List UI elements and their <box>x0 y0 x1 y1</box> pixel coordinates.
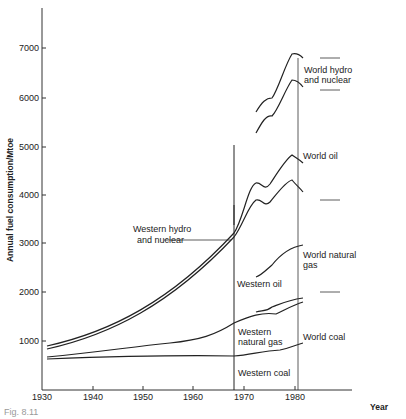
y-axis-label: Annual fuel consumption/Mtoe <box>5 138 15 262</box>
svg-text:natural gas: natural gas <box>238 337 283 347</box>
svg-text:6000: 6000 <box>19 93 39 103</box>
svg-text:1930: 1930 <box>32 392 52 402</box>
svg-text:and nuclear: and nuclear <box>137 235 184 245</box>
x-axis-label: Year <box>370 402 389 412</box>
label-world-gas: World natural <box>303 250 356 260</box>
label-world-hydro: World hydro <box>304 65 352 75</box>
svg-text:3000: 3000 <box>19 238 39 248</box>
svg-text:5000: 5000 <box>19 142 39 152</box>
svg-text:2000: 2000 <box>19 287 39 297</box>
svg-text:1980: 1980 <box>285 392 305 402</box>
label-western-coal: Western coal <box>238 368 290 378</box>
svg-text:1960: 1960 <box>183 392 203 402</box>
svg-text:1950: 1950 <box>133 392 153 402</box>
label-western-hydro: Western hydro <box>133 224 191 234</box>
svg-text:7000: 7000 <box>19 43 39 53</box>
svg-text:gas: gas <box>303 260 318 270</box>
svg-text:and nuclear: and nuclear <box>304 75 351 85</box>
svg-text:1940: 1940 <box>83 392 103 402</box>
figure-caption: Fig. 8.11 <box>4 407 38 417</box>
label-world-oil: World oil <box>303 151 338 161</box>
chart: 100020003000 400050006000 7000 193019401… <box>0 0 406 419</box>
label-western-oil: Western oil <box>237 279 282 289</box>
svg-text:1000: 1000 <box>19 336 39 346</box>
data-lines <box>47 54 303 359</box>
label-western-gas: Western <box>238 327 271 337</box>
svg-text:1970: 1970 <box>234 392 254 402</box>
svg-text:4000: 4000 <box>19 190 39 200</box>
label-world-coal: World coal <box>303 332 345 342</box>
